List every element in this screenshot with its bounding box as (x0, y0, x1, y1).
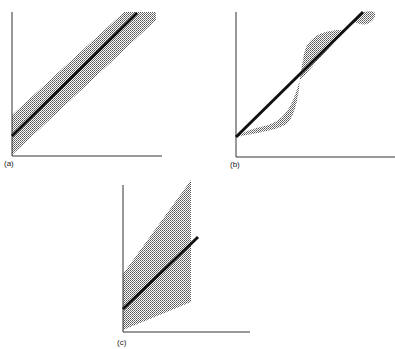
panel-c-label: (c) (117, 338, 126, 347)
panel-b-line (236, 12, 363, 137)
figure-canvas (0, 0, 395, 349)
panel-c (123, 180, 250, 332)
panel-b (236, 11, 395, 157)
panel-a-band (12, 12, 156, 155)
panel-b-label: (b) (230, 160, 240, 169)
panel-a-line (12, 13, 137, 136)
panel-a-label: (a) (4, 159, 14, 168)
panel-a (12, 12, 162, 156)
